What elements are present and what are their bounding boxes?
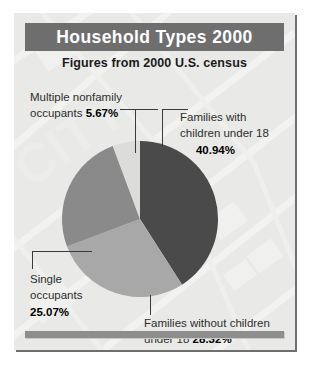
- callout-families-with-line1: Families with: [180, 109, 269, 125]
- callout-single-line1: Single: [30, 271, 82, 287]
- callout-single-line2: occupants: [30, 287, 82, 303]
- callout-nonfamily-value: 5.67%: [86, 107, 119, 119]
- callout-multiple-nonfamily: Multiple nonfamily occupants 5.67%: [30, 89, 122, 122]
- leader-line-single-horizontal: [32, 251, 92, 252]
- page-title: Household Types 2000: [56, 27, 252, 48]
- leader-line-families-without-vertical: [150, 295, 151, 315]
- callout-families-with-line2: children under 18: [180, 125, 269, 141]
- callout-families-with-value: 40.94%: [196, 144, 235, 156]
- callout-single-value: 25.07%: [30, 306, 69, 318]
- callout-families-without-line1: Families without children: [144, 315, 270, 331]
- callout-nonfamily-prefix: occupants: [30, 107, 86, 119]
- chart-title-bar: Household Types 2000: [25, 23, 284, 51]
- pie-chart: [60, 139, 220, 299]
- callout-families-with-children: Families with children under 18 40.94%: [180, 109, 269, 158]
- chart-subtitle: Figures from 2000 U.S. census: [14, 56, 295, 70]
- leader-line-families-with-vertical: [162, 109, 163, 147]
- callout-nonfamily-line2: occupants 5.67%: [30, 105, 122, 121]
- callout-nonfamily-line1: Multiple nonfamily: [30, 89, 122, 105]
- footer-rule: [25, 331, 284, 338]
- leader-line-nonfamily-vertical: [135, 109, 136, 153]
- leader-line-nonfamily-horizontal: [120, 109, 158, 110]
- leader-line-single-vertical: [32, 251, 33, 269]
- poster-stage: CITY Household Types 2000 Figures from 2…: [0, 0, 313, 377]
- callout-single-occupants: Single occupants 25.07%: [30, 271, 82, 320]
- chart-panel: CITY Household Types 2000 Figures from 2…: [14, 13, 295, 350]
